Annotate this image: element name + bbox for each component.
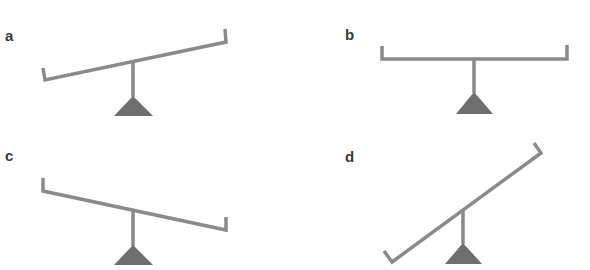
seesaw-panel-b [382,45,567,114]
fulcrum-triangle [114,96,153,116]
seesaw-panel-d [384,143,541,264]
panel-label-b: b [345,27,354,42]
fulcrum-triangle [456,92,493,114]
panel-label-d: d [345,149,354,164]
seesaw-beam [382,45,567,59]
panel-label-c: c [5,148,13,163]
panel-label-a: a [5,28,13,43]
seesaw-diagram-canvas [0,0,590,270]
seesaw-panel-a [43,29,226,116]
fulcrum-triangle [445,243,482,264]
fulcrum-triangle [114,245,153,265]
seesaw-panel-c [43,178,226,265]
